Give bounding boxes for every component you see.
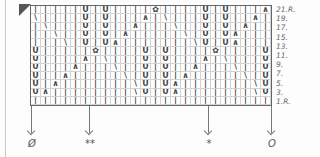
stitch-cell: | <box>151 23 161 31</box>
stitch-cell: U <box>31 89 41 97</box>
stitch-cell: | <box>151 80 161 88</box>
stitch-cell: | <box>71 97 81 105</box>
stitch-cell: | <box>251 39 261 47</box>
stitch-cell: U <box>221 23 231 31</box>
stitch-cell: | <box>181 56 191 64</box>
stitch-cell: | <box>181 39 191 47</box>
stitch-cell: | <box>221 80 231 88</box>
stitch-cell: | <box>101 64 111 72</box>
row-number-label: 3. <box>276 88 296 97</box>
row-number-label: 21.R. <box>276 5 296 14</box>
stitch-cell: | <box>181 80 191 88</box>
stitch-cell: | <box>61 47 71 55</box>
repeat-marker-label: Ø <box>28 138 36 149</box>
stitch-cell: | <box>81 64 91 72</box>
stitch-cell: | <box>61 56 71 64</box>
stitch-cell: | <box>171 56 181 64</box>
stitch-cell: | <box>31 39 41 47</box>
stitch-cell: ∖ <box>41 23 51 31</box>
stitch-cell: | <box>111 89 121 97</box>
stitch-cell: U <box>101 39 111 47</box>
stitch-cell: | <box>181 6 191 14</box>
stitch-cell: | <box>71 23 81 31</box>
row-number-label: 19. <box>276 14 296 23</box>
stitch-cell: | <box>71 6 81 14</box>
stitch-cell: U <box>81 31 91 39</box>
stitch-cell: | <box>231 56 241 64</box>
row-number-label: 1.R. <box>276 97 296 106</box>
stitch-cell: | <box>111 31 121 39</box>
stitch-cell: ∧ <box>171 89 181 97</box>
stitch-cell: | <box>181 64 191 72</box>
stitch-cell: | <box>41 97 51 105</box>
stitch-cell: U <box>81 14 91 22</box>
stitch-cell: ✿ <box>211 47 221 55</box>
stitch-cell: U <box>101 23 111 31</box>
stitch-cell: | <box>81 47 91 55</box>
stitch-cell: U <box>31 47 41 55</box>
stitch-cell: ∧ <box>111 39 121 47</box>
stitch-cell: | <box>41 14 51 22</box>
stitch-cell: | <box>201 47 211 55</box>
stitch-cell: U <box>141 72 151 80</box>
stitch-cell: | <box>241 39 251 47</box>
stitch-cell: | <box>111 72 121 80</box>
stitch-cell: | <box>261 97 271 105</box>
stitch-cell: | <box>111 47 121 55</box>
stitch-cell: | <box>211 6 221 14</box>
stitch-cell: | <box>141 97 151 105</box>
stitch-cell: | <box>231 47 241 55</box>
stitch-cell: | <box>261 31 271 39</box>
stitch-cell: | <box>191 56 201 64</box>
stitch-cell: | <box>51 89 61 97</box>
stitch-cell: ∖ <box>131 89 141 97</box>
stitch-cell: | <box>151 97 161 105</box>
stitch-cell: U <box>161 89 171 97</box>
stitch-cell: | <box>121 14 131 22</box>
stitch-cell: | <box>81 89 91 97</box>
stitch-cell: | <box>51 72 61 80</box>
stitch-cell: | <box>261 39 271 47</box>
stitch-cell: ∧ <box>241 23 251 31</box>
stitch-cell: | <box>121 80 131 88</box>
stitch-cell: | <box>81 80 91 88</box>
down-arrow-icon <box>208 106 209 133</box>
stitch-cell: ∖ <box>131 80 141 88</box>
stitch-cell: ∧ <box>191 64 201 72</box>
stitch-cell: | <box>31 23 41 31</box>
stitch-cell: | <box>151 31 161 39</box>
stitch-cell: U <box>161 64 171 72</box>
stitch-cell: | <box>211 64 221 72</box>
stitch-cell: | <box>91 97 101 105</box>
down-arrow-icon <box>31 106 32 133</box>
stitch-cell: ∖ <box>161 14 171 22</box>
stitch-cell: | <box>191 89 201 97</box>
stitch-cell: | <box>191 23 201 31</box>
stitch-cell: ∧ <box>171 80 181 88</box>
stitch-cell: U <box>221 6 231 14</box>
stitch-cell: | <box>51 23 61 31</box>
stitch-cell: | <box>151 72 161 80</box>
stitch-cell: ∧ <box>61 72 71 80</box>
stitch-cell: ∧ <box>121 31 131 39</box>
stitch-cell: U <box>141 64 151 72</box>
stitch-cell: | <box>231 23 241 31</box>
stitch-cell: | <box>251 6 261 14</box>
stitch-cell: ∧ <box>141 14 151 22</box>
stitch-cell: | <box>241 31 251 39</box>
stitch-cell: | <box>241 97 251 105</box>
stitch-cell: U <box>261 64 271 72</box>
stitch-cell: | <box>131 6 141 14</box>
stitch-cell: ∖ <box>251 80 261 88</box>
stitch-cell: | <box>171 39 181 47</box>
stitch-cell: | <box>171 47 181 55</box>
stitch-cell: U <box>141 80 151 88</box>
stitch-cell: | <box>81 72 91 80</box>
stitch-cell: | <box>161 23 171 31</box>
stitch-cell: | <box>131 72 141 80</box>
stitch-cell: | <box>241 6 251 14</box>
stitch-cell: ∧ <box>231 39 241 47</box>
stitch-cell: | <box>161 31 171 39</box>
stitch-cell: | <box>231 72 241 80</box>
row-number-label: 15. <box>276 33 296 42</box>
